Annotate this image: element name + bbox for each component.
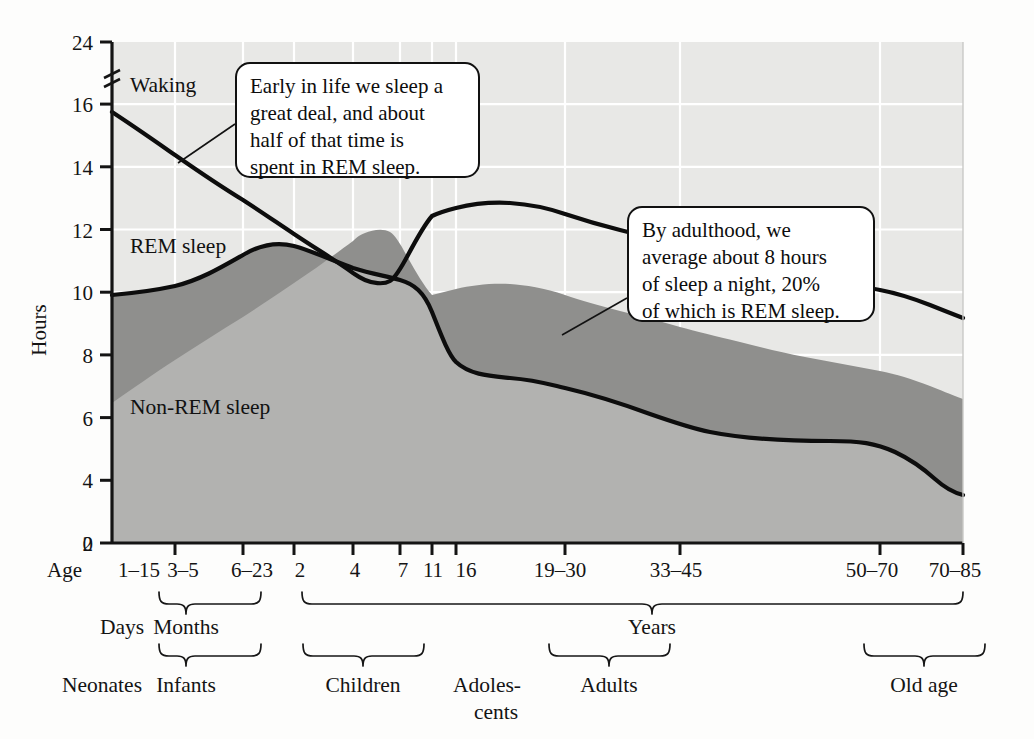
callout-adulthood-line-2: average about 8 hours [642,245,827,269]
y-tick-label-16: 16 [72,93,93,117]
callout-early-life-line-2: great deal, and about [250,101,425,125]
area-label-nonrem: Non-REM sleep [130,395,270,419]
x-tick-label-4: 4 [350,558,361,582]
x-tick-label-11: 11 [423,558,443,582]
y-tick-label-24: 24 [72,31,94,55]
stage-label-children: Children [325,673,400,697]
brace-years [302,592,963,614]
stage-label-adolescents-cont: cents [474,700,518,724]
brace-old-age [864,644,985,666]
x-axis-ticks [175,543,963,555]
x-tick-label-7: 7 [398,558,409,582]
y-axis-ticks [100,42,112,543]
x-axis-prefix-age: Age [47,558,82,582]
y-tick-label-14: 14 [72,156,94,180]
area-label-rem: REM sleep [130,234,226,258]
x-tick-label-1-15: 1–15 [118,558,160,582]
x-tick-label-19-30: 19–30 [534,558,587,582]
x-tick-label-33-45: 33–45 [650,558,703,582]
callout-adulthood-line-4: of which is REM sleep. [642,299,840,323]
sleep-across-lifespan-figure: 24 16 14 12 10 8 6 4 2 0 0 Hours Age [0,0,1034,739]
y-tick-label-8: 8 [83,344,94,368]
callout-early-life-line-3: half of that time is [250,128,404,152]
x-tick-label-6-23: 6–23 [231,558,273,582]
y-axis-title: Hours [27,304,51,355]
unit-label-years: Years [628,615,676,639]
stage-label-adolescents: Adoles- [453,673,521,697]
x-tick-label-50-70: 50–70 [846,558,899,582]
y-tick-label-zero: 0 [83,532,94,556]
stage-label-infants: Infants [156,673,216,697]
stage-label-neonates: Neonates [62,673,142,697]
callout-adulthood-line-1: By adulthood, we [642,218,791,242]
stage-label-adults: Adults [580,673,637,697]
x-tick-label-2: 2 [295,558,306,582]
brace-months [159,592,261,614]
x-tick-label-70-85: 70–85 [929,558,982,582]
x-tick-label-3-5: 3–5 [167,558,199,582]
callout-adulthood-line-3: of sleep a night, 20% [642,272,820,296]
y-tick-label-10: 10 [72,281,93,305]
y-tick-label-4: 4 [83,469,94,493]
y-tick-label-12: 12 [72,219,93,243]
stage-label-old-age: Old age [890,673,957,697]
callout-early-life-line-1: Early in life we sleep a [250,74,444,98]
chart-canvas: 24 16 14 12 10 8 6 4 2 0 0 Hours Age [0,0,1034,739]
brace-infants [159,644,261,666]
unit-label-days: Days [100,615,144,639]
y-tick-label-6: 6 [83,407,94,431]
x-tick-label-16: 16 [456,558,477,582]
callout-early-life-line-4: spent in REM sleep. [250,155,420,179]
area-label-waking: Waking [130,73,197,97]
brace-children [303,644,424,666]
unit-label-months: Months [153,615,219,639]
brace-adults [549,644,670,666]
